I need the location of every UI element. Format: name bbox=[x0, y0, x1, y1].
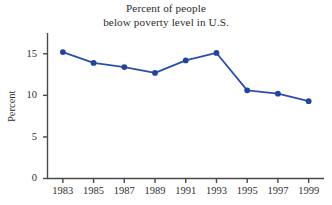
x-tick-label: 1999 bbox=[289, 186, 329, 197]
y-axis-title: Percent bbox=[7, 71, 18, 141]
data-point: 1993: 15.1 bbox=[214, 50, 220, 56]
line-chart-svg: 1983: 15.21985: 13.91987: 13.41989: 12.7… bbox=[0, 0, 332, 205]
data-point: 1987: 13.4 bbox=[121, 64, 127, 70]
data-point: 1997: 10.2 bbox=[275, 91, 281, 97]
data-point: 1989: 12.7 bbox=[152, 70, 158, 76]
data-point-markers: 1983: 15.21985: 13.91987: 13.41989: 12.7… bbox=[60, 49, 312, 104]
plot-area: 1983: 15.21985: 13.91987: 13.41989: 12.7… bbox=[0, 0, 332, 205]
data-point: 1999: 9.3 bbox=[306, 98, 312, 104]
data-point: 1983: 15.2 bbox=[60, 49, 66, 55]
y-tick-label: 0 bbox=[8, 173, 37, 184]
data-point: 1991: 14.2 bbox=[183, 58, 189, 64]
data-point: 1995: 10.6 bbox=[244, 87, 250, 93]
y-tick-label: 15 bbox=[8, 49, 37, 60]
data-point: 1985: 13.9 bbox=[91, 60, 97, 66]
chart-figure: Percent of people below poverty level in… bbox=[0, 0, 332, 205]
